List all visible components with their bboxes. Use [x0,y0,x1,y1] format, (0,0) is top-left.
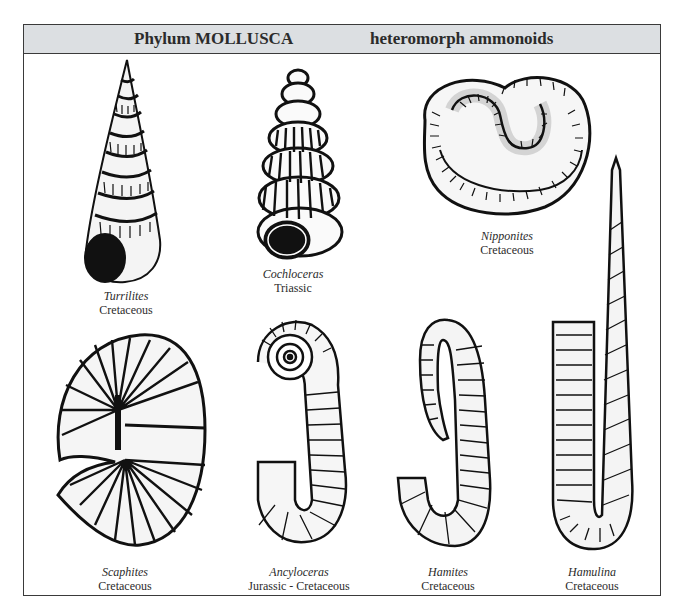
caption-hamulina: Hamulina Cretaceous [565,565,618,593]
genus-label: Hamulina [565,565,618,579]
period-label: Cretaceous [565,579,618,593]
hamulina-shell-icon [0,0,682,616]
